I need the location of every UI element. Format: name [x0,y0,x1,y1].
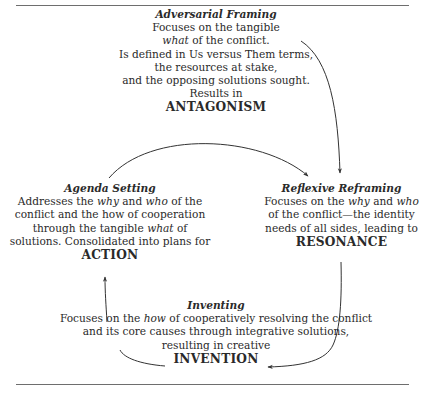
inventing-line: and its core causes through integrative … [58,325,374,338]
adversarial-framing-block: Adversarial Framing Focuses on the tangi… [108,8,324,115]
adversarial-outcome: ANTAGONISM [108,100,324,115]
reflexive-line: needs of all sides, leading to [254,222,429,235]
top-rule [16,5,409,6]
agenda-line: through the tangible what of [0,222,220,235]
adversarial-line: Results in [108,87,324,100]
adversarial-line: Is defined in Us versus Them terms, [108,48,324,61]
inventing-title: Inventing [58,299,374,312]
agenda-line: solutions. Consolidated into plans for [0,235,220,248]
reflexive-reframing-block: Reflexive Reframing Focuses on the why a… [254,182,429,250]
arrow-agenda-to-reflexive [109,144,308,178]
reflexive-title: Reflexive Reframing [254,182,429,195]
adversarial-line: the resources at stake, [108,61,324,74]
inventing-line: resulting in creative [58,339,374,352]
adversarial-line: what of the conflict. [108,34,324,47]
agenda-line: Addresses the why and who of the [0,195,220,208]
adversarial-line: and the opposing solutions sought. [108,74,324,87]
agenda-setting-block: Agenda Setting Addresses the why and who… [0,182,220,263]
agenda-line: conflict and the how of cooperation [0,208,220,221]
bottom-rule [16,384,409,385]
agenda-outcome: ACTION [0,248,220,263]
reflexive-line: of the conflict—the identity [254,208,429,221]
inventing-outcome: INVENTION [58,352,374,367]
adversarial-line: Focuses on the tangible [108,21,324,34]
inventing-block: Inventing Focuses on the how of cooperat… [58,299,374,367]
adversarial-title: Adversarial Framing [108,8,324,21]
inventing-line: Focuses on the how of cooperatively reso… [58,312,374,325]
reflexive-line: Focuses on the why and who [254,195,429,208]
agenda-title: Agenda Setting [0,182,220,195]
reflexive-outcome: RESONANCE [254,235,429,250]
